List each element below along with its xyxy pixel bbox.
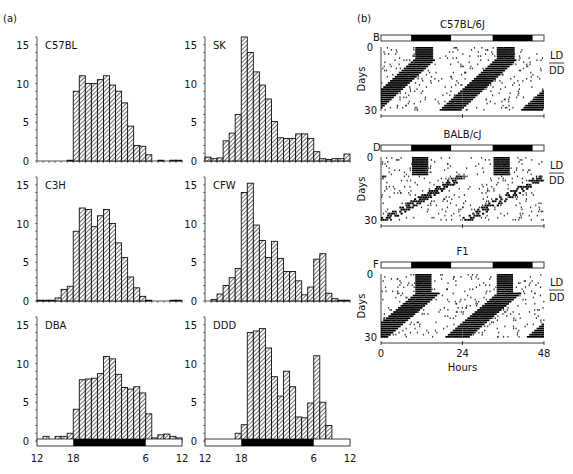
histogram-bar bbox=[284, 139, 290, 161]
histogram-bar bbox=[116, 243, 122, 301]
light-dark-bar-right: 1218612 bbox=[200, 438, 360, 468]
y-tick-label: 10 bbox=[16, 79, 29, 90]
histogram-bar bbox=[67, 160, 73, 161]
hours-tick-label: 24 bbox=[456, 348, 469, 359]
histogram-bar bbox=[91, 378, 97, 441]
histogram-bar bbox=[271, 377, 277, 441]
ld-dd-label: LD bbox=[550, 160, 564, 171]
histogram-bar bbox=[320, 159, 326, 161]
histogram-bar bbox=[128, 389, 134, 441]
histogram-bar bbox=[128, 126, 134, 161]
histogram-bar bbox=[344, 154, 350, 161]
actogram-axis-label: 30 bbox=[364, 105, 377, 116]
strain-label: DDD bbox=[213, 320, 236, 331]
ld-dd-label: LD bbox=[550, 50, 564, 61]
x-tick-label: 18 bbox=[235, 453, 248, 464]
histogram-bar bbox=[110, 85, 116, 161]
histogram-c3h: 051015C3H bbox=[7, 167, 182, 313]
histogram-bar bbox=[110, 359, 116, 441]
histogram-bar bbox=[211, 159, 217, 161]
histogram-bar bbox=[314, 259, 320, 301]
y-tick-label: 5 bbox=[191, 117, 197, 128]
histogram-bar bbox=[259, 241, 265, 301]
histogram-bar bbox=[247, 53, 253, 162]
histogram-bar bbox=[284, 371, 290, 441]
histogram-bar bbox=[128, 277, 134, 301]
histogram-bar bbox=[259, 329, 265, 441]
histogram-bar bbox=[241, 37, 247, 161]
x-tick-label: 18 bbox=[67, 453, 80, 464]
strain-label: C3H bbox=[45, 180, 66, 191]
y-tick-label: 15 bbox=[16, 320, 29, 331]
y-tick-label: 5 bbox=[23, 257, 29, 268]
histogram-bar bbox=[253, 225, 259, 301]
histogram-bar bbox=[146, 155, 152, 161]
histogram-bar bbox=[211, 299, 217, 301]
histogram-bar bbox=[290, 139, 296, 161]
histogram-bar bbox=[91, 227, 97, 301]
ld-dd-label: DD bbox=[549, 175, 565, 186]
histogram-bar bbox=[308, 287, 314, 301]
histogram-bar bbox=[85, 210, 91, 301]
histogram-bar bbox=[97, 374, 103, 441]
histogram-bar bbox=[320, 254, 326, 301]
histogram-bar bbox=[122, 388, 128, 441]
y-tick-label: 15 bbox=[184, 320, 197, 331]
actogram-axis-label: 0 bbox=[367, 269, 373, 280]
y-tick-label: 10 bbox=[184, 79, 197, 90]
y-tick-label: 0 bbox=[23, 156, 29, 167]
histogram-bar bbox=[49, 300, 55, 301]
histogram-bar bbox=[253, 331, 259, 441]
hours-tick-label: 0 bbox=[378, 348, 384, 359]
histogram-bar bbox=[103, 76, 109, 161]
histogram-bar bbox=[140, 393, 146, 441]
histogram-bar bbox=[344, 300, 350, 301]
y-tick-label: 10 bbox=[184, 219, 197, 230]
histogram-bar bbox=[97, 80, 103, 161]
histogram-dba: 051015DBA bbox=[7, 307, 182, 453]
histogram-bar bbox=[85, 379, 91, 441]
histogram-bar bbox=[146, 300, 152, 301]
y-tick-label: 5 bbox=[191, 397, 197, 408]
x-tick-label: 6 bbox=[311, 453, 317, 464]
histogram-bar bbox=[265, 348, 271, 441]
histogram-bar bbox=[116, 374, 122, 441]
histogram-bar bbox=[278, 396, 284, 441]
y-tick-label: 10 bbox=[16, 359, 29, 370]
actogram-axis-label: 30 bbox=[364, 332, 377, 343]
histogram-bar bbox=[122, 103, 128, 161]
histogram-bar bbox=[217, 294, 223, 301]
y-tick-label: 5 bbox=[23, 397, 29, 408]
histogram-c57bl: 051015C57BL bbox=[7, 27, 182, 173]
histogram-bar bbox=[259, 85, 265, 161]
actogram-axis-label: 0 bbox=[367, 152, 373, 163]
histogram-bar bbox=[326, 159, 332, 161]
y-tick-label: 15 bbox=[184, 40, 197, 51]
histogram-bar bbox=[247, 183, 253, 301]
histogram-bar bbox=[302, 134, 308, 161]
histogram-bar bbox=[134, 288, 140, 301]
y-tick-label: 5 bbox=[23, 117, 29, 128]
histogram-bar bbox=[103, 210, 109, 301]
histogram-bar bbox=[338, 159, 344, 161]
histogram-bar bbox=[332, 159, 338, 161]
histogram-bar bbox=[271, 241, 277, 301]
histogram-bar bbox=[332, 299, 338, 301]
y-tick-label: 15 bbox=[16, 40, 29, 51]
x-tick-label: 12 bbox=[344, 453, 357, 464]
histogram-bar bbox=[217, 158, 223, 161]
histogram-bar bbox=[223, 286, 229, 302]
histogram-bar bbox=[79, 76, 85, 161]
histogram-bar bbox=[308, 139, 314, 161]
actogram-title: F1 bbox=[456, 246, 468, 257]
histogram-bar bbox=[85, 84, 91, 162]
y-tick-label: 15 bbox=[184, 180, 197, 191]
histogram-bar bbox=[278, 258, 284, 301]
histogram-bar bbox=[253, 72, 259, 161]
histogram-bar bbox=[116, 91, 122, 161]
actogram-letter: B bbox=[373, 32, 380, 43]
strain-label: SK bbox=[213, 40, 226, 51]
strain-label: DBA bbox=[45, 320, 67, 331]
histogram-bar bbox=[290, 272, 296, 301]
histogram-bar bbox=[91, 84, 97, 162]
